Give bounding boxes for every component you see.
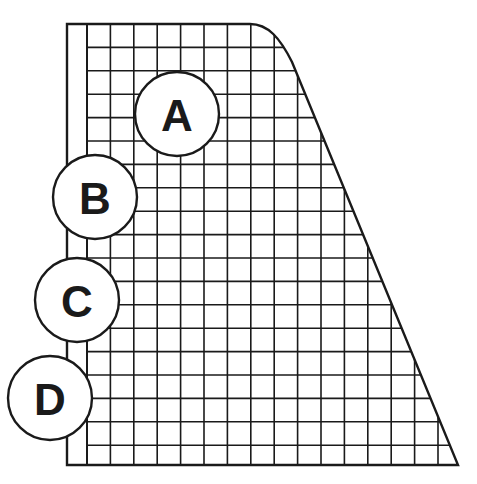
callout-a-letter: A: [161, 91, 193, 140]
callout-d-letter: D: [34, 375, 66, 424]
callout-b-letter: B: [79, 174, 111, 223]
callout-a: A: [135, 72, 219, 156]
callout-c-letter: C: [61, 277, 93, 326]
callout-b: B: [53, 155, 137, 239]
callout-c: C: [35, 258, 119, 342]
callout-d: D: [8, 356, 92, 440]
grid-panel-diagram: A B C D: [0, 0, 477, 484]
